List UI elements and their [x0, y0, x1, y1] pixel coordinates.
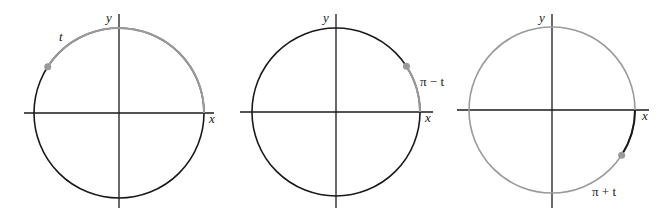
- y-axis-label: y: [104, 10, 112, 25]
- panel-t: x y t: [24, 10, 215, 208]
- x-axis-label: x: [641, 108, 648, 123]
- panel-pi-minus-t: x y π − t: [240, 10, 444, 208]
- arc-label: π − t: [420, 74, 444, 89]
- x-axis-label: x: [424, 110, 431, 125]
- point-marker: [403, 63, 410, 70]
- highlight-arc: [622, 110, 635, 155]
- arc-label: π + t: [592, 184, 616, 199]
- arc-label: t: [59, 29, 63, 44]
- y-axis-label: y: [321, 10, 329, 25]
- panel-pi-plus-t: x y π + t: [457, 10, 649, 208]
- y-axis-label: y: [537, 10, 545, 25]
- unit-circle-figure: x y t x y π − t x y π + t: [0, 0, 666, 216]
- highlight-arc: [406, 66, 420, 112]
- point-marker: [44, 63, 51, 70]
- highlight-arc: [48, 28, 204, 113]
- x-axis-label: x: [208, 111, 215, 126]
- point-marker: [618, 152, 625, 159]
